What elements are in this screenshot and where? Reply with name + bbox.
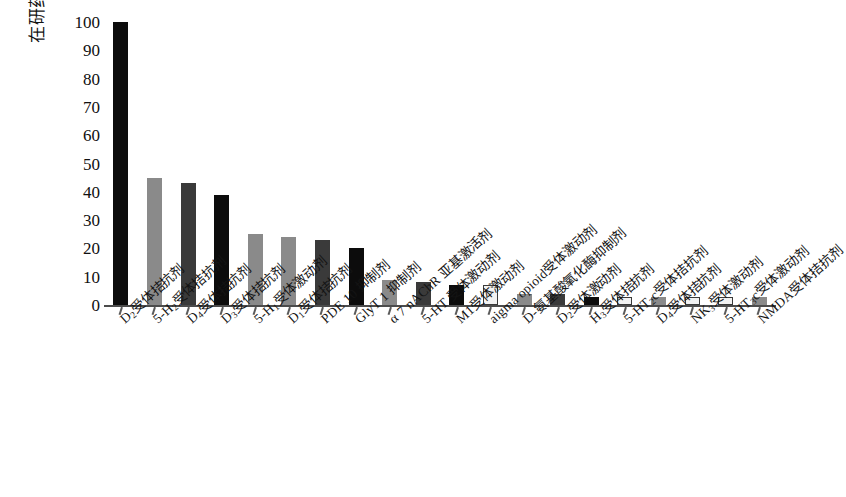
bar-chart: 在研药物数量/种 0102030405060708090100 D2受体拮抗剂5… [0,0,798,497]
x-axis-category-labels: D2受体拮抗剂5-H2受体拮抗剂D4受体拮抗剂D3受体拮抗剂5-H1受体激动剂D… [0,0,798,497]
